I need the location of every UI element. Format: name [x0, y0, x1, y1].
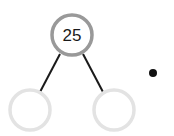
edge-root-left [40, 54, 60, 92]
root-node: 25 [52, 15, 92, 55]
child-node-left[interactable] [10, 90, 50, 130]
factor-tree-diagram: 25 [0, 0, 174, 136]
child-node-right[interactable] [94, 90, 134, 130]
bullet-dot-icon [149, 69, 157, 77]
root-node-label: 25 [63, 26, 82, 45]
edge-root-right [83, 54, 103, 92]
